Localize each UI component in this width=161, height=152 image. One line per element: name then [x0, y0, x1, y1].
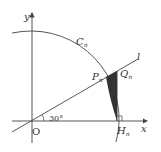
origin-label: O	[32, 126, 40, 137]
point-h-label: Hn	[116, 125, 130, 137]
x-axis-label: x	[141, 123, 147, 134]
point-q-label: Qn	[120, 68, 132, 80]
angle-label: 30°	[49, 114, 63, 123]
coordinate-diagram: y x O 30° Cn l Pn Qn Hn	[0, 0, 161, 152]
curve-label: Cn	[76, 36, 88, 48]
curve-c-n	[12, 31, 119, 142]
line-l-label: l	[137, 51, 140, 62]
shaded-region	[106, 71, 117, 121]
angle-arc	[42, 115, 44, 121]
point-p-label: Pn	[91, 71, 103, 83]
y-axis-label: y	[23, 11, 30, 22]
